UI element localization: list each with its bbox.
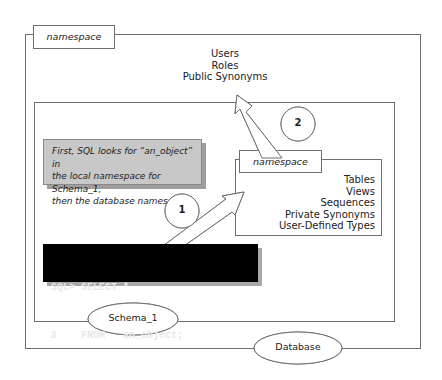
database-ellipse-label: Database xyxy=(258,341,338,352)
schema-ellipse-label: Schema_1 xyxy=(93,312,173,323)
step-1-label: 1 xyxy=(172,204,192,215)
sql-line: SQL> SELECT * xyxy=(51,280,250,296)
sql-statement-box: SQL> SELECT * 2 FROM an_object; xyxy=(43,244,258,282)
sql-line: 2 FROM an_object; xyxy=(51,328,250,344)
step-2-label: 2 xyxy=(288,117,308,128)
